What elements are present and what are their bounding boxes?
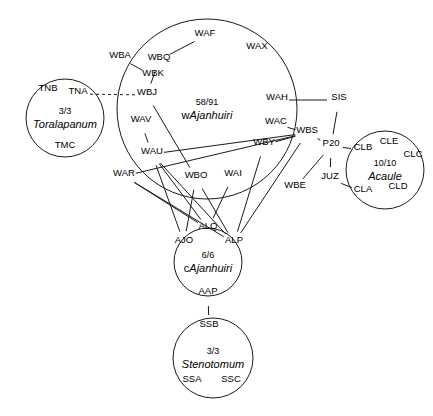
node-label-clb[interactable]: CLB [354,141,372,152]
group-circles-layer [26,19,424,398]
edge-wav-wau [145,133,148,142]
node-label-wai[interactable]: WAI [224,167,242,178]
group-name-italic-stenotomum: Stenotomum [182,358,244,370]
node-label-cle[interactable]: CLE [380,135,398,146]
node-label-tmc[interactable]: TMC [55,139,76,150]
group-name-wajanhuiri: wAjanhuiri [181,109,233,121]
node-label-wax[interactable]: WAX [246,40,268,51]
node-label-wba[interactable]: WBA [109,49,131,60]
group-count-toralapanum: 3/3 [59,106,72,116]
edge-wai-alq [213,187,228,218]
group-name-toralapanum: Toralapanum [33,118,97,130]
labels-layer: 3/3ToralapanumTNBTNATMC58/91wAjanhuiriWA… [33,27,423,384]
edge-wba-wbk [131,64,143,71]
node-label-cla[interactable]: CLA [354,183,373,194]
node-label-p20[interactable]: P20 [323,137,340,148]
group-name-stenotomum: Stenotomum [182,358,244,370]
group-count-wajanhuiri: 58/91 [196,97,219,107]
edge-p20-clb [343,147,351,148]
node-label-wbs[interactable]: WBS [296,124,318,135]
node-label-war[interactable]: WAR [113,167,135,178]
edge-sis-p20 [333,112,337,134]
node-label-wbk[interactable]: WBK [142,67,164,78]
group-name-italic-wajanhuiri: Ajanhuiri [189,109,233,121]
node-label-ssb[interactable]: SSB [199,318,218,329]
node-label-wah[interactable]: WAH [266,91,288,102]
group-name-italic-cajanhuiri: Ajanhuiri [188,262,232,274]
edge-wbe-p20 [303,155,323,179]
node-label-ssc[interactable]: SSC [221,373,241,384]
node-label-wac[interactable]: WAC [265,115,287,126]
node-label-wby[interactable]: WBY [253,136,275,147]
node-label-alp[interactable]: ALP [225,234,243,245]
node-label-ssa[interactable]: SSA [182,373,202,384]
node-label-waf[interactable]: WAF [195,27,216,38]
node-label-wav[interactable]: WAV [131,113,152,124]
network-diagram-svg: 3/3ToralapanumTNBTNATMC58/91wAjanhuiriWA… [0,0,433,416]
edge-wbq-waf [170,42,195,55]
group-name-cajanhuiri: cAjanhuiri [184,262,233,274]
node-label-wbe[interactable]: WBE [284,179,306,190]
group-name-prefix-wajanhuiri: w [181,109,190,121]
group-count-acaule: 10/10 [374,158,397,168]
node-label-ajo[interactable]: AJO [175,234,193,245]
node-label-alq[interactable]: ALQ [198,220,217,231]
group-count-cajanhuiri: 6/6 [202,250,215,260]
edge-wau-wbs [164,135,295,153]
edge-wbo-ajo [186,190,194,231]
node-label-wau[interactable]: WAU [141,145,163,156]
node-label-tnb[interactable]: TNB [39,82,58,93]
node-label-aap[interactable]: AAP [198,285,217,296]
node-label-wbj[interactable]: WBJ [137,86,157,97]
node-label-sis[interactable]: SIS [331,91,346,102]
node-label-cld[interactable]: CLD [388,180,407,191]
node-label-clc[interactable]: CLC [403,148,422,159]
diagram-canvas: 3/3ToralapanumTNBTNATMC58/91wAjanhuiriWA… [0,0,433,416]
group-name-italic-toralapanum: Toralapanum [33,118,97,130]
group-count-stenotomum: 3/3 [207,346,220,356]
node-label-juz[interactable]: JUZ [321,170,339,181]
node-label-wbo[interactable]: WBO [185,169,208,180]
edge-wbs-p20 [318,139,321,141]
node-label-tna[interactable]: TNA [69,85,89,96]
node-label-wbq[interactable]: WBQ [148,51,171,62]
